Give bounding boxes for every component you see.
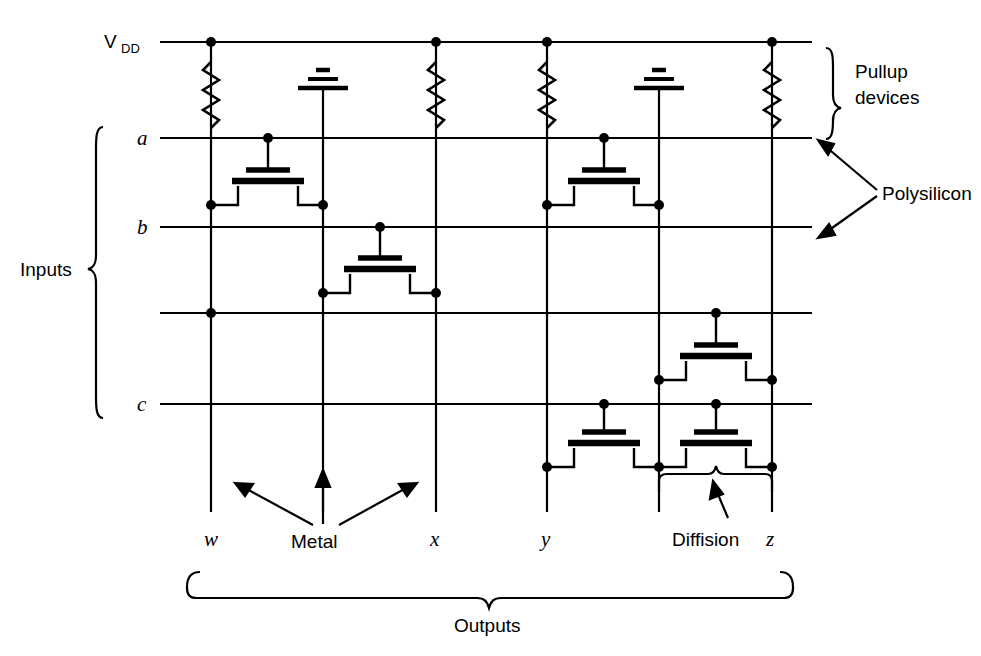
metal-arrows (235, 470, 417, 525)
transistor-t6 (659, 404, 772, 467)
junction-dots (206, 37, 777, 472)
text-labels: V DD a b c Inputs Pullup devices Polysil… (20, 31, 972, 636)
polysilicon-arrows (818, 140, 877, 238)
transistor-t1 (211, 138, 323, 205)
inputs-label: Inputs (20, 259, 72, 280)
ground-icon-1 (298, 70, 348, 88)
transistor-t4 (659, 313, 772, 380)
diffusion-label: Diffision (672, 529, 739, 550)
ground-icon-2 (634, 70, 684, 88)
pullup-resistors (203, 62, 780, 128)
figure-canvas: V DD a b c Inputs Pullup devices Polysil… (0, 0, 981, 656)
transistor-t3 (547, 138, 659, 205)
outputs-label: Outputs (454, 615, 521, 636)
row-label-b: b (137, 215, 148, 239)
transistor-t5 (547, 404, 659, 467)
outputs-brace (187, 572, 793, 608)
row-label-a: a (137, 126, 148, 150)
inputs-bracket (88, 127, 103, 418)
transistor-t2 (323, 227, 436, 293)
pullup-label-line2: devices (855, 87, 919, 108)
pullup-label-line1: Pullup (855, 61, 908, 82)
column-label-y: y (539, 527, 551, 551)
pullup-bracket (826, 48, 841, 139)
vdd-label: V (104, 31, 117, 52)
row-label-c: c (137, 392, 147, 416)
column-label-x: x (429, 527, 440, 551)
diffusion-arrow (710, 481, 728, 518)
metal-label: Metal (291, 531, 337, 552)
column-label-w: w (204, 527, 218, 551)
ground-symbols (298, 70, 684, 88)
polysilicon-label: Polysilicon (882, 183, 972, 204)
vdd-subscript: DD (121, 41, 140, 56)
column-label-z: z (765, 527, 774, 551)
